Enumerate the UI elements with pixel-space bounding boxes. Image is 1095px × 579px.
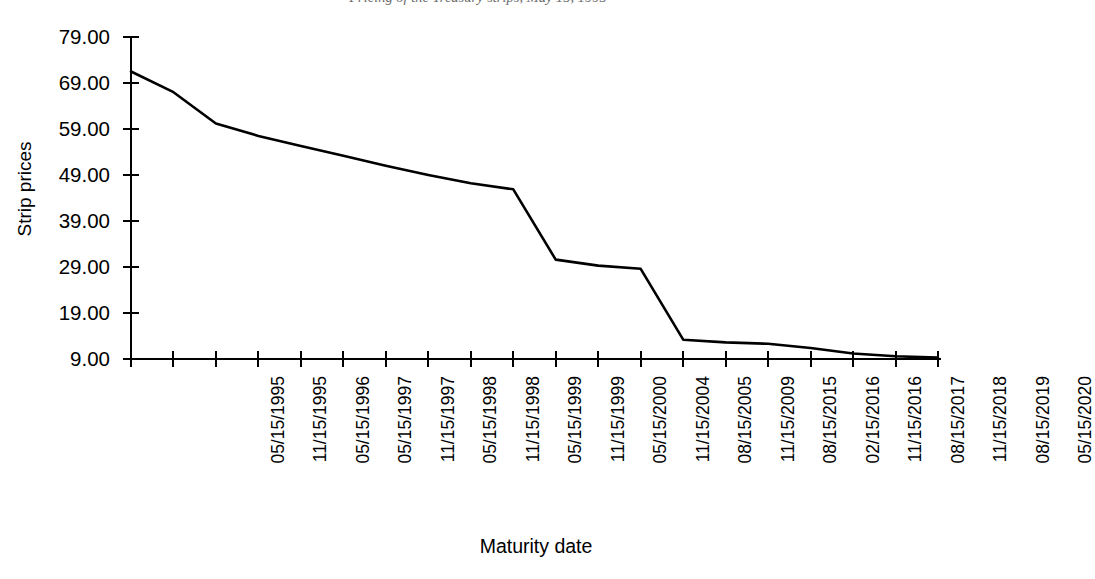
x-tick-label: 11/15/2018 (992, 376, 1010, 506)
x-tick-label: 11/15/2016 (907, 376, 925, 506)
x-tick-label: 08/15/2019 (1035, 376, 1053, 506)
x-tick-label: 11/15/2004 (695, 376, 713, 506)
x-tick-label: 08/15/2015 (822, 376, 840, 506)
x-axis-title: Maturity date (131, 535, 941, 558)
x-tick-label: 05/15/1998 (482, 376, 500, 506)
x-tick-label: 11/15/1999 (610, 376, 628, 506)
x-tick-label: 08/15/2017 (950, 376, 968, 506)
x-tick-label: 08/15/2005 (737, 376, 755, 506)
x-tick-label: 05/15/2020 (1077, 376, 1095, 506)
x-tick-label: 11/15/1997 (440, 376, 458, 506)
x-tick-label: 05/15/1995 (270, 376, 288, 506)
x-tick-label: 11/15/1995 (312, 376, 330, 506)
x-tick-label: 05/15/2000 (652, 376, 670, 506)
x-tick-label: 11/15/2009 (780, 376, 798, 506)
x-tick-label: 05/15/1996 (355, 376, 373, 506)
x-tick-label: 02/15/2016 (865, 376, 883, 506)
x-tick-label: 11/15/1998 (525, 376, 543, 506)
x-tick-label: 05/15/1999 (567, 376, 585, 506)
x-tick-label: 05/15/1997 (397, 376, 415, 506)
